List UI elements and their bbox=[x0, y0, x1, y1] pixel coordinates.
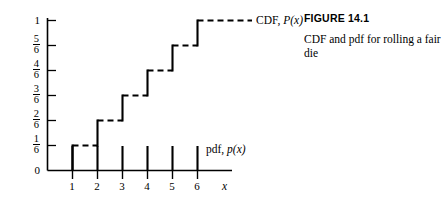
fraction-denominator: 6 bbox=[33, 144, 40, 155]
plot-area: 1 5 6 4 6 3 6 2 6 bbox=[0, 0, 280, 201]
y-tick-label-3-6: 3 6 bbox=[14, 84, 40, 104]
x-axis-label: x bbox=[222, 181, 227, 193]
x-tick-label-3: 3 bbox=[114, 181, 130, 192]
pdf-series-label: pdf, p(x) bbox=[206, 144, 246, 156]
cdf-label-symbol: P(x) bbox=[283, 14, 303, 26]
x-axis-ticks bbox=[73, 171, 198, 180]
fraction-2-6: 2 6 bbox=[33, 109, 40, 129]
y-tick-label-0: 0 bbox=[14, 165, 40, 176]
y-axis-ticks bbox=[48, 21, 57, 146]
fraction-denominator: 6 bbox=[33, 69, 40, 80]
cdf-series-label: CDF, P(x) bbox=[256, 15, 303, 27]
y-tick-label-1-6: 1 6 bbox=[14, 134, 40, 154]
x-tick-label-2: 2 bbox=[89, 181, 105, 192]
fraction-denominator: 6 bbox=[33, 44, 40, 55]
figure-number: FIGURE 14.1 bbox=[304, 12, 446, 25]
fraction-denominator: 6 bbox=[33, 119, 40, 130]
chart-canvas bbox=[0, 0, 280, 201]
fraction-numerator: 3 bbox=[33, 84, 40, 94]
y-tick-label-5-6: 5 6 bbox=[14, 34, 40, 54]
x-tick-label-6: 6 bbox=[189, 181, 205, 192]
x-tick-label-1: 1 bbox=[64, 181, 80, 192]
caption-block: FIGURE 14.1 CDF and pdf for rolling a fa… bbox=[304, 12, 446, 60]
cdf-label-prefix: CDF, bbox=[256, 14, 283, 26]
fraction-3-6: 3 6 bbox=[33, 84, 40, 104]
y-tick-label-2-6: 2 6 bbox=[14, 109, 40, 129]
y-tick-label-1: 1 bbox=[14, 15, 40, 26]
fraction-numerator: 5 bbox=[33, 34, 40, 44]
pdf-label-prefix: pdf, bbox=[206, 143, 227, 155]
x-tick-label-5: 5 bbox=[164, 181, 180, 192]
fraction-5-6: 5 6 bbox=[33, 34, 40, 54]
figure-container: 1 5 6 4 6 3 6 2 6 bbox=[0, 0, 446, 201]
x-tick-label-4: 4 bbox=[139, 181, 155, 192]
pdf-label-symbol: p(x) bbox=[227, 143, 246, 155]
fraction-numerator: 1 bbox=[33, 134, 40, 144]
fraction-numerator: 4 bbox=[33, 59, 40, 69]
figure-caption: CDF and pdf for rolling a fair die bbox=[304, 32, 446, 61]
pdf-impulses bbox=[73, 146, 198, 170]
fraction-1-6: 1 6 bbox=[33, 134, 40, 154]
fraction-4-6: 4 6 bbox=[33, 59, 40, 79]
cdf-step-treads bbox=[73, 21, 253, 146]
fraction-denominator: 6 bbox=[33, 94, 40, 105]
y-tick-label-4-6: 4 6 bbox=[14, 59, 40, 79]
fraction-numerator: 2 bbox=[33, 109, 40, 119]
